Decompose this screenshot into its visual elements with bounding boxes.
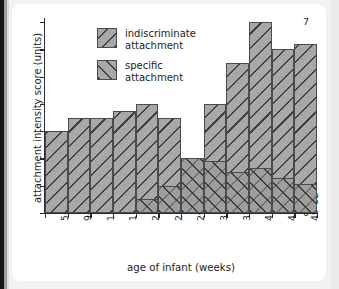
y-tick-label-7: 7 xyxy=(303,17,309,27)
y-tick-7 xyxy=(40,22,45,23)
bar-indiscriminate-21-24 xyxy=(136,104,159,213)
bar-specific-33-36 xyxy=(204,161,227,213)
legend-item-specific: specific attachment xyxy=(97,60,196,83)
bar-specific-25-28 xyxy=(158,186,181,213)
bar-specific-37-40 xyxy=(226,172,249,213)
backslash-hatch-swatch-icon xyxy=(97,28,117,48)
forwardslash-hatch-swatch-icon xyxy=(97,60,117,80)
screenshot-page: 01234567 5–89–1213–1617–2021–2425–2829–3… xyxy=(0,0,339,289)
chart-legend: indiscriminate attachment specific attac… xyxy=(97,28,196,92)
legend-label-indiscriminate: indiscriminate attachment xyxy=(125,28,196,51)
bar-indiscriminate-17-20 xyxy=(113,111,136,213)
bar-specific-41-44 xyxy=(249,168,272,213)
y-axis-title: attachment intensity score (units) xyxy=(32,33,43,203)
x-tick-0 xyxy=(45,213,46,218)
x-axis-title: age of infant (weeks) xyxy=(45,262,317,273)
chart-plot-area: 01234567 5–89–1213–1617–2021–2425–2829–3… xyxy=(45,22,317,213)
legend-item-indiscriminate: indiscriminate attachment xyxy=(97,28,196,51)
bar-indiscriminate-9-12 xyxy=(68,118,91,214)
bar-specific-21-24 xyxy=(136,199,159,213)
page-left-edge-light xyxy=(7,0,9,289)
page-right-edge xyxy=(330,0,339,289)
bar-specific-45-48 xyxy=(272,178,295,213)
bar-specific-49-52 xyxy=(294,184,317,213)
bar-indiscriminate-13-16 xyxy=(90,118,113,214)
bar-indiscriminate-5-8 xyxy=(45,131,68,213)
bar-specific-29-32 xyxy=(181,158,204,213)
legend-label-specific: specific attachment xyxy=(125,60,183,83)
figure-card: 01234567 5–89–1213–1617–2021–2425–2829–3… xyxy=(12,4,326,281)
